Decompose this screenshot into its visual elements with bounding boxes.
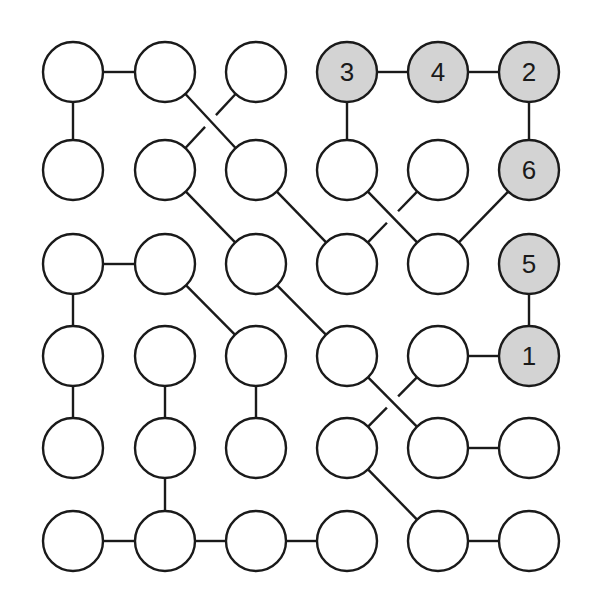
node-circle[interactable] bbox=[226, 511, 286, 571]
given-node[interactable]: 5 bbox=[499, 234, 559, 294]
node-circle[interactable] bbox=[408, 326, 468, 386]
node-number: 5 bbox=[522, 249, 536, 279]
node-circle[interactable] bbox=[226, 326, 286, 386]
empty-node[interactable] bbox=[135, 326, 195, 386]
node-circle[interactable] bbox=[408, 511, 468, 571]
empty-node[interactable] bbox=[135, 511, 195, 571]
node-circle[interactable] bbox=[226, 234, 286, 294]
node-number: 4 bbox=[431, 57, 445, 87]
empty-node[interactable] bbox=[43, 42, 103, 102]
node-circle[interactable] bbox=[408, 140, 468, 200]
empty-node[interactable] bbox=[317, 418, 377, 478]
empty-node[interactable] bbox=[226, 511, 286, 571]
empty-node[interactable] bbox=[408, 326, 468, 386]
empty-node[interactable] bbox=[226, 140, 286, 200]
empty-node[interactable] bbox=[135, 418, 195, 478]
node-circle[interactable] bbox=[317, 511, 377, 571]
node-circle[interactable] bbox=[43, 140, 103, 200]
connection-line bbox=[185, 127, 205, 148]
node-circle[interactable] bbox=[135, 326, 195, 386]
edges-layer bbox=[73, 72, 529, 541]
connection-line bbox=[368, 469, 417, 519]
empty-node[interactable] bbox=[135, 140, 195, 200]
empty-node[interactable] bbox=[226, 234, 286, 294]
node-circle[interactable] bbox=[43, 234, 103, 294]
node-circle[interactable] bbox=[317, 418, 377, 478]
connection-line bbox=[277, 285, 326, 334]
empty-node[interactable] bbox=[135, 42, 195, 102]
empty-node[interactable] bbox=[43, 234, 103, 294]
node-circle[interactable] bbox=[408, 418, 468, 478]
empty-node[interactable] bbox=[43, 511, 103, 571]
node-circle[interactable] bbox=[135, 511, 195, 571]
connection-line bbox=[216, 94, 236, 115]
connection-line bbox=[186, 285, 235, 334]
node-number: 3 bbox=[340, 57, 354, 87]
given-node[interactable]: 1 bbox=[499, 326, 559, 386]
connection-line bbox=[459, 192, 508, 243]
node-circle[interactable] bbox=[226, 418, 286, 478]
node-circle[interactable] bbox=[499, 418, 559, 478]
empty-node[interactable] bbox=[499, 511, 559, 571]
node-number: 6 bbox=[522, 155, 536, 185]
given-node[interactable]: 2 bbox=[499, 42, 559, 102]
empty-node[interactable] bbox=[135, 234, 195, 294]
connection-line bbox=[398, 192, 417, 212]
connection-line bbox=[368, 408, 387, 427]
given-node[interactable]: 4 bbox=[408, 42, 468, 102]
node-circle[interactable] bbox=[43, 511, 103, 571]
node-number: 2 bbox=[522, 57, 536, 87]
empty-node[interactable] bbox=[43, 326, 103, 386]
node-circle[interactable] bbox=[317, 234, 377, 294]
empty-node[interactable] bbox=[408, 140, 468, 200]
empty-node[interactable] bbox=[408, 511, 468, 571]
connection-line bbox=[398, 377, 417, 396]
empty-node[interactable] bbox=[408, 234, 468, 294]
node-circle[interactable] bbox=[499, 511, 559, 571]
node-circle[interactable] bbox=[317, 326, 377, 386]
empty-node[interactable] bbox=[226, 418, 286, 478]
puzzle-board: 342651 bbox=[0, 0, 596, 614]
node-circle[interactable] bbox=[226, 140, 286, 200]
empty-node[interactable] bbox=[317, 140, 377, 200]
node-number: 1 bbox=[522, 341, 536, 371]
node-circle[interactable] bbox=[43, 326, 103, 386]
node-circle[interactable] bbox=[408, 234, 468, 294]
node-circle[interactable] bbox=[135, 418, 195, 478]
nodes-layer: 342651 bbox=[43, 42, 559, 571]
node-circle[interactable] bbox=[317, 140, 377, 200]
node-circle[interactable] bbox=[135, 140, 195, 200]
connection-line bbox=[368, 223, 387, 243]
empty-node[interactable] bbox=[317, 234, 377, 294]
empty-node[interactable] bbox=[499, 418, 559, 478]
node-circle[interactable] bbox=[135, 234, 195, 294]
node-circle[interactable] bbox=[43, 42, 103, 102]
empty-node[interactable] bbox=[226, 42, 286, 102]
empty-node[interactable] bbox=[43, 140, 103, 200]
given-node[interactable]: 6 bbox=[499, 140, 559, 200]
node-circle[interactable] bbox=[135, 42, 195, 102]
node-circle[interactable] bbox=[226, 42, 286, 102]
node-circle[interactable] bbox=[43, 418, 103, 478]
empty-node[interactable] bbox=[226, 326, 286, 386]
empty-node[interactable] bbox=[408, 418, 468, 478]
empty-node[interactable] bbox=[43, 418, 103, 478]
empty-node[interactable] bbox=[317, 326, 377, 386]
connection-line bbox=[277, 192, 326, 243]
empty-node[interactable] bbox=[317, 511, 377, 571]
connection-line bbox=[186, 192, 235, 243]
given-node[interactable]: 3 bbox=[317, 42, 377, 102]
